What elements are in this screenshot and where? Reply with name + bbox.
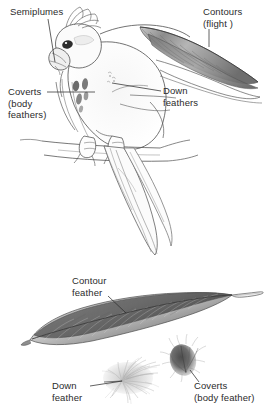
- label-coverts-body-feathers: Coverts (body feathers): [8, 86, 46, 121]
- label-coverts-body-feather: Coverts (body feather): [194, 380, 255, 403]
- label-contours-flight: Contours (flight ): [203, 6, 242, 29]
- bird-eye-highlight: [65, 42, 67, 44]
- label-contour-feather: Contour feather: [72, 275, 107, 298]
- label-semiplumes: Semiplumes: [10, 6, 63, 18]
- label-down-feather: Down feather: [52, 380, 82, 403]
- feather-diagram: [0, 0, 276, 411]
- label-down-feathers: Down feathers: [163, 85, 198, 108]
- down-feather-haze: [103, 362, 153, 394]
